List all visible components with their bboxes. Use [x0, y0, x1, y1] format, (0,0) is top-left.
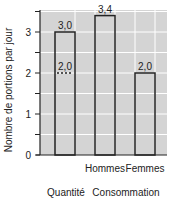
y-tick-label: 0: [25, 150, 31, 161]
reference-value-label: 2,0: [58, 61, 72, 72]
y-ticks: 0123: [25, 12, 40, 161]
bar-value-label: 2,0: [138, 61, 152, 72]
bar-value-label: 3,4: [98, 4, 112, 15]
group-label-quantite: Quantité: [47, 187, 85, 198]
bar-value-label: 3,0: [58, 20, 72, 31]
y-tick-label: 1: [25, 109, 31, 120]
y-axis-label: Nombre de portions par jour: [3, 27, 14, 152]
group-label-consommation: Consommation: [92, 187, 159, 198]
y-tick-label: 3: [25, 27, 31, 38]
bar-chart: 3,03,42,02,0 0123 Nombre de portions par…: [0, 0, 179, 200]
y-tick-label: 2: [25, 68, 31, 79]
tick-label-femmes: Femmes: [126, 163, 165, 174]
tick-label-hommes: Hommes: [85, 163, 125, 174]
